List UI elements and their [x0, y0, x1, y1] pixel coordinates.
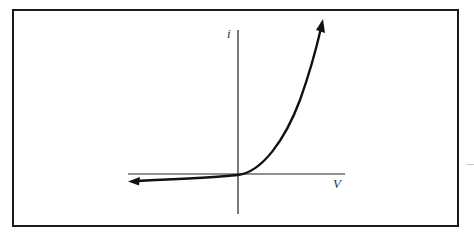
vertical-axis-label: i [227, 26, 231, 42]
horizontal-axis-label: V [333, 176, 341, 192]
iv-plot [0, 0, 474, 235]
iv-curve [136, 28, 321, 181]
edge-mark [466, 164, 474, 165]
up-arrowhead-icon [316, 19, 325, 33]
left-arrowhead-icon [128, 177, 140, 186]
